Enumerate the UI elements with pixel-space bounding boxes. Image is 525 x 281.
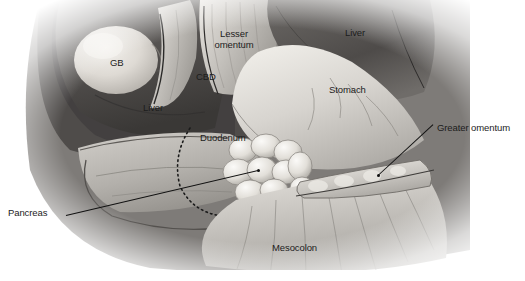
label-liver-left: Liver xyxy=(143,103,163,114)
label-gb: GB xyxy=(110,58,124,69)
label-duodenum: Duodenum xyxy=(200,133,246,144)
label-mesocolon: Mesocolon xyxy=(272,243,317,254)
anatomical-illustration xyxy=(0,0,525,281)
label-liver-right: Liver xyxy=(345,28,365,39)
label-greater-omentum: Greater omentum xyxy=(437,123,510,134)
label-stomach: Stomach xyxy=(329,85,366,96)
label-lesser-omentum: Lesser omentum xyxy=(208,29,260,50)
label-pancreas: Pancreas xyxy=(8,208,47,219)
label-cbd: CBD xyxy=(196,72,216,83)
pancreas-leader-dot xyxy=(257,169,260,172)
anatomy-figure: GB Liver Lesser omentum CBD Liver Stomac… xyxy=(0,0,525,281)
greater-omentum-leader-dot xyxy=(377,174,380,177)
